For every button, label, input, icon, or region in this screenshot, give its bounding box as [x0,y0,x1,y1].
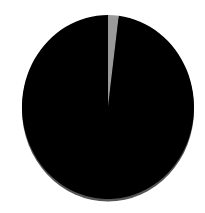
pie-slice-slice-a [22,15,194,199]
pie-chart [0,0,205,213]
pie-slices [22,15,194,199]
